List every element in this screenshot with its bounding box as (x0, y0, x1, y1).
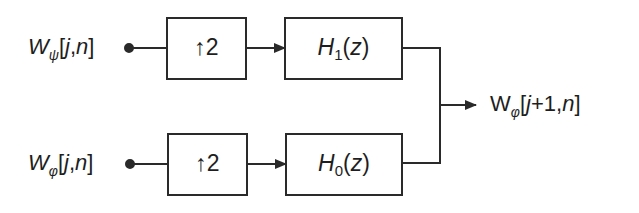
upsampler-label-top: ↑2 (167, 36, 246, 59)
output-label: Wφ[j+1,n] (490, 93, 581, 115)
filter-label-bottom: H0(z) (286, 152, 402, 175)
filter-label-top: H1(z) (285, 36, 402, 59)
input-label-bottom: Wφ[j,n] (28, 152, 93, 174)
wire-filter-top-to-sum (402, 48, 440, 105)
input-label-top: Wψ[j,n] (28, 36, 94, 58)
wire-filter-bottom-to-sum (402, 105, 440, 163)
upsampler-label-bottom: ↑2 (168, 152, 247, 175)
